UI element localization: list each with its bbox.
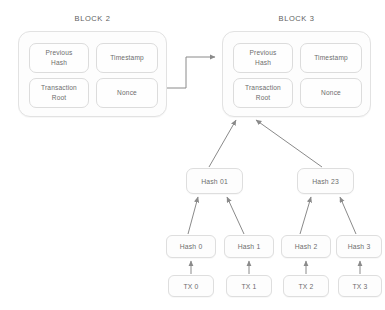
connector-hash2-to-hash23 <box>300 197 311 234</box>
transaction-tx-1: TX 1 <box>226 275 272 297</box>
block-3-title: BLOCK 3 <box>222 14 371 23</box>
merkle-node-hash-01: Hash 01 <box>186 168 243 194</box>
block-2-transaction-root-box: Transaction Root <box>29 78 89 108</box>
connector-hash0-to-hash01 <box>188 197 198 234</box>
connector-hash23-to-transaction-root <box>256 120 322 167</box>
merkle-node-hash-0: Hash 0 <box>166 235 216 258</box>
merkle-node-hash-23: Hash 23 <box>297 168 354 194</box>
connector-hash1-to-hash01 <box>227 197 244 234</box>
blockchain-merkle-diagram: BLOCK 2 Previous Hash Timestamp Transact… <box>0 0 385 310</box>
block-3-transaction-root-box: Transaction Root <box>233 78 293 108</box>
transaction-tx-0: TX 0 <box>168 275 214 297</box>
connector-hash3-to-hash23 <box>340 197 356 234</box>
block-2-timestamp-box: Timestamp <box>96 43 158 73</box>
transaction-tx-3: TX 3 <box>338 275 382 297</box>
merkle-node-hash-2: Hash 2 <box>281 235 331 258</box>
block-3-nonce-box: Nonce <box>300 78 362 108</box>
block-3-previous-hash-box: Previous Hash <box>233 43 293 73</box>
block-2-card: Previous Hash Timestamp Transaction Root… <box>18 31 167 117</box>
merkle-node-hash-1: Hash 1 <box>224 235 274 258</box>
block-3-card: Previous Hash Timestamp Transaction Root… <box>222 31 371 117</box>
connector-hash01-to-transaction-root <box>209 120 236 167</box>
connector-block2-to-block3-chain-link <box>167 57 215 88</box>
block-2-previous-hash-box: Previous Hash <box>29 43 89 73</box>
block-2-nonce-box: Nonce <box>96 78 158 108</box>
block-3-timestamp-box: Timestamp <box>300 43 362 73</box>
merkle-node-hash-3: Hash 3 <box>336 235 382 258</box>
transaction-tx-2: TX 2 <box>283 275 329 297</box>
block-2-title: BLOCK 2 <box>18 14 167 23</box>
